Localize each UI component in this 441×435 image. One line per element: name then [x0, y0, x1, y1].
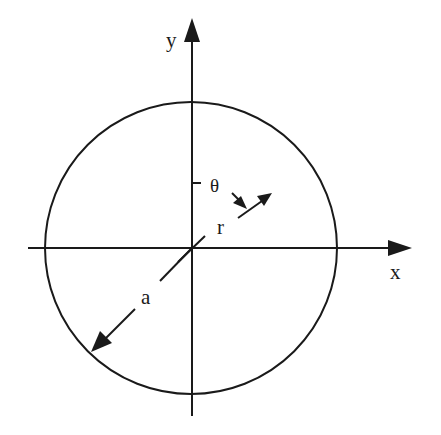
radius-r-label: r [217, 217, 224, 238]
x-axis-label: x [390, 262, 401, 283]
radius-a-label: a [141, 287, 150, 308]
y-axis-label: y [166, 30, 177, 51]
y-axis-arrowhead-icon [184, 18, 200, 42]
radius-a-line-lower [104, 309, 135, 340]
x-axis-arrowhead-icon [388, 240, 412, 256]
theta-label: θ [210, 176, 219, 195]
unit-vector-theta-arrowhead-icon [233, 196, 247, 209]
